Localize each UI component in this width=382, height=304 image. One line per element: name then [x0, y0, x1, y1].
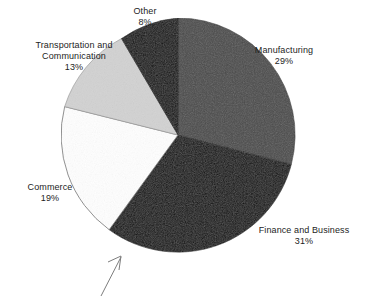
pie-label-manufacturing-text: Manufacturing [255, 45, 313, 55]
pie-chart-figure: Other 8% Transportation and Communicatio… [0, 0, 382, 304]
pie-label-commerce: Commerce 19% [4, 182, 96, 204]
pie-label-transportation-percent: 13% [4, 62, 144, 73]
pie-label-other-percent: 8% [108, 17, 182, 28]
pie-label-manufacturing: Manufacturing 29% [214, 45, 354, 67]
pie-label-transportation-line2: Communication [4, 51, 144, 62]
callout-arrow [101, 256, 121, 296]
pie-label-finance-text: Finance and Business [259, 225, 350, 235]
pie-label-commerce-text: Commerce [28, 182, 73, 192]
pie-label-other: Other 8% [108, 6, 182, 28]
figure-caption [0, 293, 382, 304]
pie-label-finance-and-business: Finance and Business 31% [230, 225, 378, 247]
pie-label-manufacturing-percent: 29% [214, 56, 354, 67]
pie-label-transportation-line1: Transportation and [35, 40, 112, 50]
pie-label-other-text: Other [133, 6, 156, 16]
pie-label-transportation-and-communication: Transportation and Communication 13% [4, 40, 144, 73]
pie-label-commerce-percent: 19% [4, 193, 96, 204]
pie-label-finance-percent: 31% [230, 236, 378, 247]
